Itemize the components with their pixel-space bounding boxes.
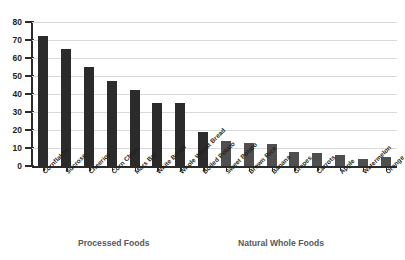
y-tick-label-70: 70 <box>0 36 22 44</box>
group-caption-processed: Processed Foods <box>78 238 150 248</box>
y-tick-label-50: 50 <box>0 72 22 80</box>
y-tick-label-10: 10 <box>0 144 22 152</box>
x-tick <box>89 166 91 171</box>
y-tick-label-0: 0 <box>0 162 22 170</box>
x-tick <box>249 166 251 171</box>
bar <box>244 143 254 166</box>
y-tick-label-80: 80 <box>0 18 22 26</box>
x-tick <box>317 166 319 171</box>
bar-chart: 01020304050607080 CornflakesSucroseCheer… <box>0 0 405 260</box>
x-tick <box>43 166 45 171</box>
y-tick-label-60: 60 <box>0 54 22 62</box>
bar <box>198 132 208 166</box>
x-tick <box>272 166 274 171</box>
bar <box>38 36 48 166</box>
bar <box>358 159 368 166</box>
y-tick-label-30: 30 <box>0 108 22 116</box>
y-tick-label-20: 20 <box>0 126 22 134</box>
x-tick <box>294 166 296 171</box>
bar <box>130 90 140 166</box>
x-tick <box>66 166 68 171</box>
bar <box>107 81 117 166</box>
bar <box>221 141 231 166</box>
bar <box>61 49 71 166</box>
bar <box>175 103 185 166</box>
bar <box>152 103 162 166</box>
y-tick-label-40: 40 <box>0 90 22 98</box>
x-axis-spine <box>32 166 397 168</box>
group-caption-natural: Natural Whole Foods <box>238 238 324 248</box>
x-tick <box>157 166 159 171</box>
x-tick <box>135 166 137 171</box>
bar <box>267 144 277 166</box>
bar <box>335 155 345 166</box>
x-tick <box>112 166 114 171</box>
x-tick <box>363 166 365 171</box>
bar <box>381 157 391 166</box>
bar <box>312 153 322 166</box>
x-tick <box>340 166 342 171</box>
bar <box>289 152 299 166</box>
bars-layer <box>32 22 397 166</box>
x-tick <box>226 166 228 171</box>
x-tick <box>203 166 205 171</box>
x-tick <box>386 166 388 171</box>
bar <box>84 67 94 166</box>
x-tick <box>180 166 182 171</box>
